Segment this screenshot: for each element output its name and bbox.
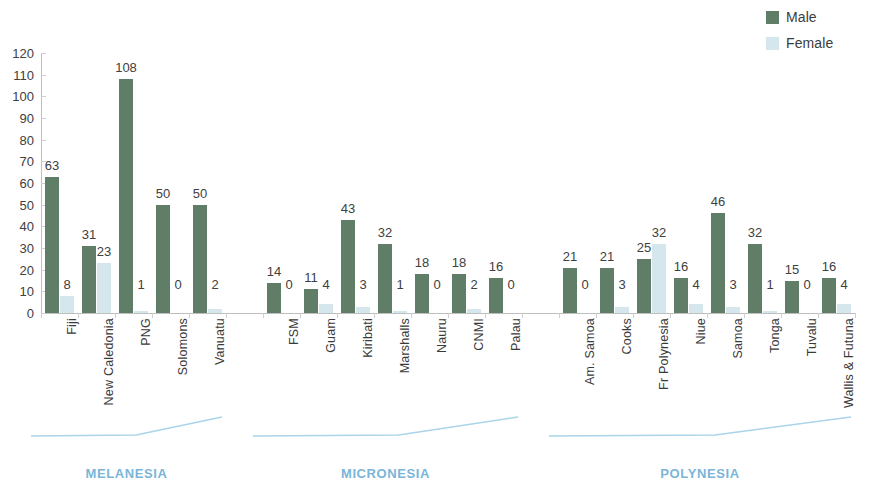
bar-value-label-male: 50: [156, 186, 170, 201]
bar-value-label-female: 1: [766, 277, 773, 292]
bar-male: [822, 278, 836, 313]
bar-male: [304, 289, 318, 313]
bar-female: [134, 311, 148, 313]
bar-male: [156, 205, 170, 313]
bar-value-label-male: 15: [785, 262, 799, 277]
legend-swatch-male: [766, 11, 779, 24]
bar-male: [378, 244, 392, 313]
category-label: Fr Polynesia: [657, 318, 671, 390]
bar-value-label-female: 0: [803, 277, 810, 292]
y-axis-tick-label: 50: [0, 197, 34, 212]
bar-male: [193, 205, 207, 313]
bar-female: [393, 311, 407, 313]
bar-value-label-female: 4: [840, 277, 847, 292]
region-bracket: [253, 414, 518, 448]
category-label: Wallis & Futuna: [842, 318, 856, 408]
bar-male: [563, 268, 577, 314]
bar-value-label-female: 0: [581, 277, 588, 292]
region-bracket: [549, 414, 851, 448]
bar-male: [748, 244, 762, 313]
region-bracket: [31, 414, 222, 448]
chart-canvas: Male Female 1201101009080706050403020100…: [0, 0, 876, 490]
category-label: New Caledonia: [102, 318, 116, 405]
y-axis-tick-label: 100: [0, 89, 34, 104]
category-label: Vanuatu: [213, 318, 227, 365]
bar-female: [652, 244, 666, 313]
y-axis-tick-label: 30: [0, 241, 34, 256]
bar-female: [689, 304, 703, 313]
bar-value-label-female: 4: [322, 277, 329, 292]
bar-male: [600, 268, 614, 314]
bar-value-label-female: 3: [729, 277, 736, 292]
y-axis-tick-label: 0: [0, 306, 34, 321]
bar-male: [674, 278, 688, 313]
bar-value-label-male: 46: [711, 194, 725, 209]
bar-male: [341, 220, 355, 313]
bar-value-label-male: 50: [193, 186, 207, 201]
chart-legend: Male Female: [766, 4, 876, 56]
category-label: PNG: [139, 318, 153, 346]
category-label: Kiribati: [361, 318, 375, 358]
bar-male: [415, 274, 429, 313]
bar-value-label-female: 2: [211, 277, 218, 292]
y-axis-tick-label: 120: [0, 46, 34, 61]
category-label: Marshalls: [398, 318, 412, 373]
y-axis-tick-label: 20: [0, 262, 34, 277]
bar-value-label-male: 16: [489, 259, 503, 274]
legend-swatch-female: [766, 37, 779, 50]
bar-value-label-female: 1: [137, 277, 144, 292]
region-label: POLYNESIA: [660, 466, 739, 481]
x-axis-tick-mark: [263, 313, 264, 318]
bar-male: [711, 213, 725, 313]
bar-male: [119, 79, 133, 313]
bar-value-label-male: 11: [304, 270, 318, 285]
category-label: Tonga: [768, 318, 782, 353]
bar-female: [97, 263, 111, 313]
bar-male: [267, 283, 281, 313]
y-axis-tick-label: 70: [0, 154, 34, 169]
bar-male: [45, 177, 59, 314]
y-axis-tick-label: 90: [0, 111, 34, 126]
legend-label-female: Female: [786, 35, 833, 51]
bar-value-label-male: 31: [82, 227, 96, 242]
bar-female: [615, 307, 629, 314]
bar-value-label-male: 16: [674, 259, 688, 274]
bar-value-label-female: 23: [97, 244, 111, 259]
bar-female: [319, 304, 333, 313]
bar-value-label-female: 0: [285, 277, 292, 292]
category-label: Tuvalu: [805, 318, 819, 356]
y-axis-tick-label: 60: [0, 176, 34, 191]
bar-male: [785, 281, 799, 314]
category-label: Cooks: [620, 318, 634, 354]
category-label: Fiji: [65, 318, 79, 335]
y-axis-tick-label: 10: [0, 284, 34, 299]
bar-value-label-female: 8: [63, 277, 70, 292]
bar-value-label-male: 43: [341, 201, 355, 216]
bar-female: [726, 307, 740, 314]
bar-female: [837, 304, 851, 313]
region-label: MELANESIA: [86, 466, 168, 481]
y-axis-tick-label: 110: [0, 67, 34, 82]
bar-value-label-female: 32: [652, 225, 666, 240]
category-label: Am. Samoa: [583, 318, 597, 385]
region-label: MICRONESIA: [341, 466, 430, 481]
bar-female: [467, 309, 481, 313]
bar-value-label-male: 108: [115, 60, 137, 75]
bar-male: [82, 246, 96, 313]
bar-value-label-male: 21: [563, 249, 577, 264]
bar-value-label-male: 14: [267, 264, 281, 279]
bar-female: [763, 311, 777, 313]
plot-area: 6383123108150050214011443332118018216021…: [41, 53, 855, 313]
bar-female: [356, 307, 370, 314]
bar-value-label-female: 1: [396, 277, 403, 292]
category-label: Samoa: [731, 318, 745, 359]
bar-value-label-male: 25: [637, 240, 651, 255]
bar-female: [60, 296, 74, 313]
bar-value-label-female: 4: [692, 277, 699, 292]
bar-value-label-female: 3: [618, 277, 625, 292]
bar-value-label-male: 32: [378, 225, 392, 240]
bar-value-label-male: 16: [822, 259, 836, 274]
y-axis-tick-label: 80: [0, 132, 34, 147]
category-label: Palau: [509, 318, 523, 351]
category-label: Nauru: [435, 318, 449, 353]
